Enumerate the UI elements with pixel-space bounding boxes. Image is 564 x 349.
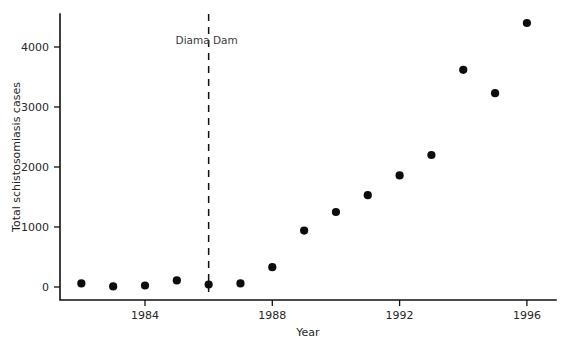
- diama-dam-label: Diama Dam: [176, 34, 238, 46]
- data-point: [236, 279, 244, 287]
- x-tick-label: 1984: [131, 309, 159, 322]
- y-tick-label: 4000: [21, 41, 49, 54]
- x-tick-label: 1992: [386, 309, 414, 322]
- data-point: [364, 191, 372, 199]
- y-tick-label: 0: [42, 281, 49, 294]
- data-point: [173, 276, 181, 284]
- y-tick-label: 2000: [21, 161, 49, 174]
- data-point: [459, 66, 467, 74]
- plot-background: [0, 0, 564, 349]
- data-point: [427, 151, 435, 159]
- data-point: [300, 227, 308, 235]
- data-point: [268, 263, 276, 271]
- y-tick-label: 1000: [21, 221, 49, 234]
- data-point: [141, 281, 149, 289]
- data-point: [205, 281, 213, 289]
- data-point: [523, 19, 531, 27]
- chart-container: 01000200030004000 1984198819921996 Total…: [0, 0, 564, 349]
- data-point: [396, 171, 404, 179]
- x-axis-title: Year: [295, 326, 320, 339]
- data-point: [332, 208, 340, 216]
- scatter-plot: 01000200030004000 1984198819921996 Total…: [0, 0, 564, 349]
- x-tick-label: 1996: [513, 309, 541, 322]
- y-tick-label: 3000: [21, 101, 49, 114]
- y-axis-title: Total schistosomiasis cases: [10, 82, 23, 233]
- x-tick-label: 1988: [258, 309, 286, 322]
- data-point: [109, 282, 117, 290]
- data-point: [491, 89, 499, 97]
- data-point: [77, 279, 85, 287]
